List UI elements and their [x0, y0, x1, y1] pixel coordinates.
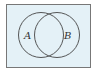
- venn-diagram: A B: [0, 0, 100, 73]
- set-a-label: A: [23, 30, 31, 41]
- set-b-label: B: [63, 30, 71, 41]
